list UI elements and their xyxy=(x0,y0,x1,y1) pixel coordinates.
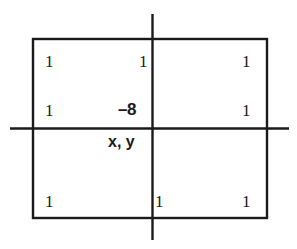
center-coefficient: –8 xyxy=(118,101,136,118)
node-bottom-left: 1 xyxy=(45,193,54,210)
node-middle-right: 1 xyxy=(242,102,251,119)
stencil-lines xyxy=(0,0,297,249)
node-bottom-center: 1 xyxy=(155,193,164,210)
node-middle-left: 1 xyxy=(45,102,54,119)
node-top-center-left: 1 xyxy=(139,53,148,70)
center-point-label: x, y xyxy=(108,134,135,150)
stencil-diagram: 1 1 1 1 1 1 1 1 –8 x, y xyxy=(0,0,297,249)
node-bottom-right: 1 xyxy=(242,193,251,210)
node-top-left: 1 xyxy=(45,53,54,70)
node-top-right: 1 xyxy=(242,53,251,70)
